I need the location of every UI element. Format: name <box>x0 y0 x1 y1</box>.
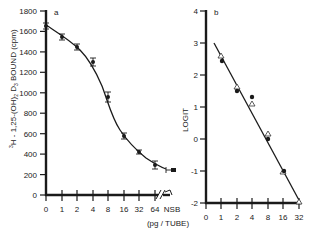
svg-text:1: 1 <box>60 205 65 214</box>
triangle-marker <box>234 84 240 89</box>
panel-a-x-ticks: 0 1 2 4 8 16 32 64 NSB <box>44 190 180 214</box>
svg-text:400: 400 <box>24 150 38 159</box>
svg-text:800: 800 <box>24 109 38 118</box>
circle-marker <box>220 59 224 63</box>
svg-text:1000: 1000 <box>19 89 37 98</box>
svg-text:64: 64 <box>151 205 160 214</box>
svg-text:2: 2 <box>75 205 80 214</box>
svg-text:1: 1 <box>219 213 224 222</box>
svg-text:1: 1 <box>194 103 199 112</box>
svg-text:0: 0 <box>194 135 199 144</box>
svg-text:0: 0 <box>33 191 38 200</box>
panel-a-x-axis-title: (pg / TUBE) <box>147 219 189 228</box>
svg-text:1200: 1200 <box>19 68 37 77</box>
svg-text:0: 0 <box>44 205 49 214</box>
panel-b: b LOGIT -2 -1 0 1 2 3 4 0 1 2 4 8 16 32 <box>181 7 304 222</box>
svg-text:1600: 1600 <box>19 27 37 36</box>
svg-text:8: 8 <box>266 213 271 222</box>
panel-b-regression-line <box>214 43 300 202</box>
svg-text:4: 4 <box>194 7 199 16</box>
svg-text:32: 32 <box>135 205 144 214</box>
circle-marker <box>282 169 286 173</box>
panel-b-label: b <box>214 8 219 17</box>
panel-a-y-axis-title: 3H - 1,25-(OH)2 D3 BOUND (cpm) <box>8 29 19 148</box>
svg-text:0: 0 <box>204 213 209 222</box>
svg-text:NSB: NSB <box>164 205 180 214</box>
svg-text:200: 200 <box>24 171 38 180</box>
panel-a-label: a <box>54 8 59 17</box>
svg-text:16: 16 <box>279 213 288 222</box>
svg-text:1800: 1800 <box>19 7 37 16</box>
triangle-marker <box>218 53 224 58</box>
svg-text:2: 2 <box>235 213 240 222</box>
triangle-marker <box>265 131 271 136</box>
circle-marker <box>250 95 254 99</box>
panel-a-data-points <box>43 23 176 173</box>
svg-text:600: 600 <box>24 130 38 139</box>
triangle-marker <box>296 199 302 204</box>
svg-text:2: 2 <box>194 71 199 80</box>
svg-text:1400: 1400 <box>19 48 37 57</box>
svg-text:32: 32 <box>295 213 304 222</box>
svg-text:3: 3 <box>194 39 199 48</box>
panel-a-y-ticks: 0 200 400 600 800 1000 1200 1400 1600 18… <box>19 7 46 200</box>
svg-text:8: 8 <box>106 205 111 214</box>
panel-b-y-axis-title: LOGIT <box>181 108 190 132</box>
data-point-nsb <box>166 167 176 173</box>
panel-b-x-ticks: 0 1 2 4 8 16 32 <box>204 198 304 222</box>
figure: a 3H - 1,25-(OH)2 D3 BOUND (cpm) 0 200 4… <box>0 0 310 240</box>
triangle-marker <box>249 101 255 106</box>
svg-text:4: 4 <box>250 213 255 222</box>
svg-text:16: 16 <box>120 205 129 214</box>
circle-marker <box>235 89 239 93</box>
panel-b-y-ticks: -2 -1 0 1 2 3 4 <box>191 7 206 208</box>
panel-a: a 3H - 1,25-(OH)2 D3 BOUND (cpm) 0 200 4… <box>8 7 189 228</box>
svg-text:-2: -2 <box>191 199 199 208</box>
svg-text:4: 4 <box>91 205 96 214</box>
circle-marker <box>266 137 270 141</box>
svg-text:-1: -1 <box>191 167 199 176</box>
